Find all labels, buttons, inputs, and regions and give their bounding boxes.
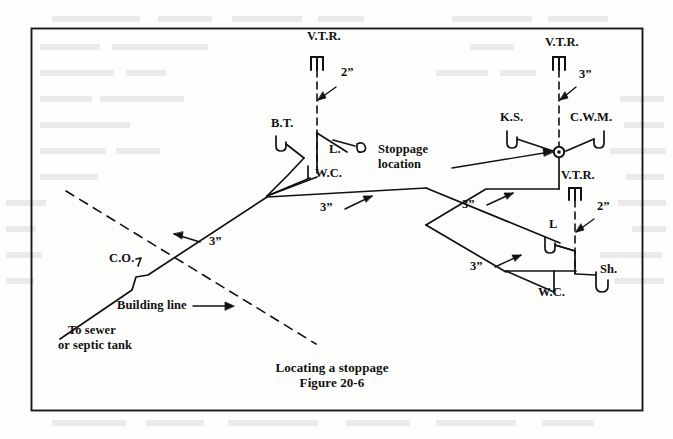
label-building-line: Building line bbox=[117, 298, 187, 312]
label-bt: B.T. bbox=[271, 116, 293, 130]
arrowhead-2in-left bbox=[318, 92, 326, 100]
vtr-cap-lower-right bbox=[569, 188, 581, 200]
label-wc-left: W.C. bbox=[315, 166, 342, 180]
stoppage-location-marker-core bbox=[557, 150, 561, 154]
arrowhead-3in-mid bbox=[363, 196, 372, 202]
label-l-left: L. bbox=[329, 142, 341, 156]
house-drain-to-sewer bbox=[60, 197, 267, 339]
label-l-lower: L bbox=[549, 217, 557, 231]
label-vtr-left: V.T.R. bbox=[307, 29, 341, 43]
label-stoppage-line1: Stoppage bbox=[378, 142, 428, 156]
arrowhead-2in-lower bbox=[576, 224, 584, 232]
label-size-3in-house: 3” bbox=[209, 234, 222, 248]
label-co: C.O. bbox=[109, 251, 134, 265]
label-to-sewer-line2: or septic tank bbox=[58, 338, 132, 352]
label-size-3in-right: 3” bbox=[579, 67, 592, 81]
building-line-dashed bbox=[66, 191, 316, 344]
branch-lower-right-to-main bbox=[426, 225, 506, 272]
house-drain-left-run bbox=[267, 188, 426, 197]
fixture-kitchen-sink-trap bbox=[507, 131, 553, 151]
label-stoppage-line2: location bbox=[378, 157, 421, 171]
label-wc-right: W.C. bbox=[538, 285, 565, 299]
arrowhead-3in-lowerarm bbox=[512, 255, 521, 261]
fixture-bath-tub-trap bbox=[276, 136, 304, 158]
arrowhead-3in-upperarm bbox=[504, 193, 513, 199]
label-cwm: C.W.M. bbox=[570, 110, 612, 124]
branch-stack-to-junction-left bbox=[267, 177, 317, 196]
label-size-2in-left: 2” bbox=[341, 65, 354, 79]
label-size-3in-mid: 3” bbox=[320, 200, 333, 214]
label-sh: Sh. bbox=[600, 262, 617, 276]
fixture-clothes-washer-trap bbox=[566, 131, 604, 151]
vtr-cap-right bbox=[553, 57, 565, 70]
house-drain-right-run bbox=[426, 188, 560, 243]
label-ks: K.S. bbox=[500, 110, 523, 124]
arrowhead-3in-right-stack bbox=[560, 92, 568, 100]
label-size-3in-upper: 3” bbox=[462, 197, 475, 211]
label-size-3in-lower: 3” bbox=[470, 259, 483, 273]
leader-stoppage bbox=[452, 152, 550, 168]
arrowhead-3in-house bbox=[174, 232, 183, 239]
label-size-2in-lower: 2” bbox=[597, 199, 610, 213]
label-to-sewer-line1: To sewer bbox=[68, 323, 116, 337]
vtr-cap-left bbox=[311, 57, 323, 70]
figure-caption-title: Locating a stoppage bbox=[232, 361, 432, 376]
arrowhead-building-line bbox=[225, 302, 234, 310]
label-vtr-right: V.T.R. bbox=[545, 35, 579, 49]
figure-caption-number: Figure 20-6 bbox=[232, 376, 432, 391]
branch-bt-to-junction bbox=[267, 158, 304, 196]
branch-upper-right-to-main bbox=[426, 189, 559, 225]
label-vtr-lower: V.T.R. bbox=[561, 168, 595, 182]
branch-lavatory-lower-arm bbox=[555, 245, 575, 274]
figure-page: V.T.R. 2” B.T. L. W.C. 3” V.T.R. 3” K.S.… bbox=[0, 0, 673, 439]
cleanout-tick bbox=[136, 258, 141, 266]
